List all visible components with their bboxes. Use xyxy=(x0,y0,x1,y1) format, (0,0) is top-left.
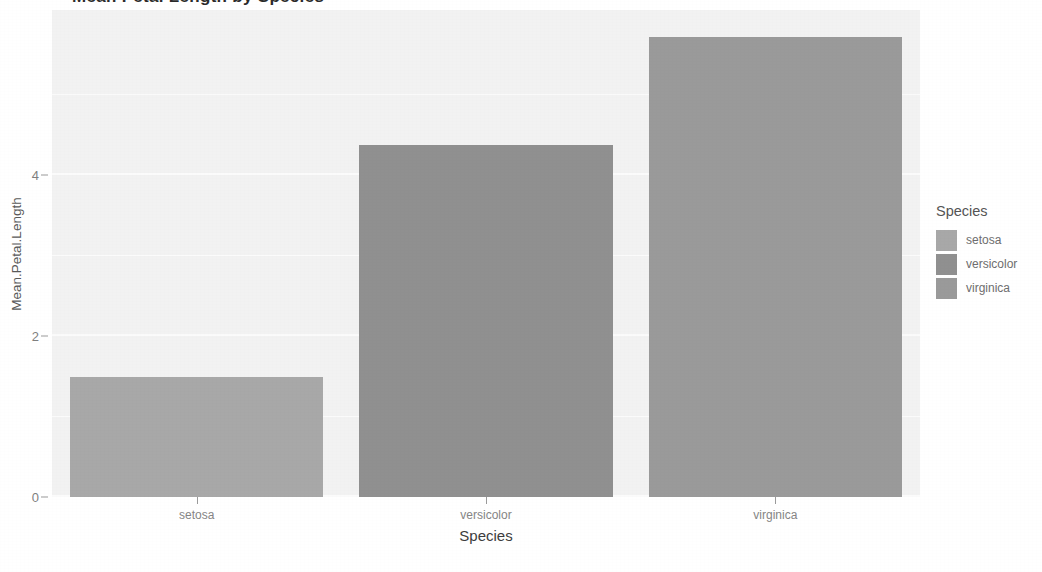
bar-setosa xyxy=(70,377,323,497)
legend-label-virginica: virginica xyxy=(966,281,1010,295)
x-tick-mark-versicolor xyxy=(486,497,487,504)
y-axis-title-wrapper: Mean.Petal.Length xyxy=(14,10,15,497)
legend-swatch-setosa xyxy=(936,230,957,251)
legend-swatch-virginica xyxy=(936,278,957,299)
legend-label-versicolor: versicolor xyxy=(966,257,1017,271)
y-tick-mark-4 xyxy=(41,175,48,176)
y-tick-mark-2 xyxy=(41,336,48,337)
legend-label-setosa: setosa xyxy=(966,233,1001,247)
plot-panel xyxy=(52,10,920,497)
y-tick-mark-0 xyxy=(41,497,48,498)
legend-item-setosa[interactable]: setosa xyxy=(936,228,1040,252)
x-tick-label-setosa: setosa xyxy=(179,508,214,522)
x-tick-mark-virginica xyxy=(775,497,776,504)
y-tick-label-0: 0 xyxy=(32,490,39,505)
bar-versicolor xyxy=(359,145,612,497)
x-tick-mark-setosa xyxy=(197,497,198,504)
y-axis-title: Mean.Petal.Length xyxy=(9,197,24,310)
legend-title: Species xyxy=(936,203,1040,219)
legend-item-virginica[interactable]: virginica xyxy=(936,276,1040,300)
x-tick-label-versicolor: versicolor xyxy=(460,508,511,522)
chart-title-clipped: Mean Petal Length by Species xyxy=(0,0,1042,9)
legend: Species setosa versicolor virginica xyxy=(936,203,1040,300)
x-axis-title: Species xyxy=(459,527,512,544)
x-tick-label-virginica: virginica xyxy=(753,508,797,522)
y-tick-label-2: 2 xyxy=(32,329,39,344)
chart-title-text: Mean Petal Length by Species xyxy=(72,0,324,7)
bar-virginica xyxy=(649,37,902,497)
chart-figure: Mean Petal Length by Species 0 2 4 Mean.… xyxy=(0,0,1042,572)
legend-item-versicolor[interactable]: versicolor xyxy=(936,252,1040,276)
y-tick-label-4: 4 xyxy=(32,168,39,183)
legend-swatch-versicolor xyxy=(936,254,957,275)
